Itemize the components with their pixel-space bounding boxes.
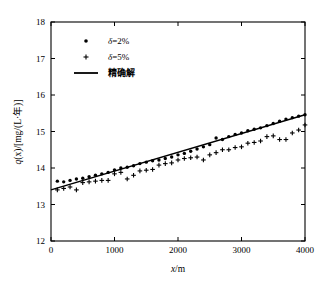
y-tick-label: 18 — [36, 17, 46, 27]
y-tick-label: 14 — [36, 163, 46, 173]
data-point-dot — [284, 117, 287, 120]
data-point-dot — [145, 160, 148, 163]
data-point-dot — [68, 179, 71, 182]
y-tick-label: 12 — [36, 236, 45, 246]
x-tick-label: 3000 — [233, 245, 252, 255]
data-point-dot — [56, 179, 59, 182]
data-point-dot — [81, 177, 84, 180]
data-point-dot — [272, 122, 275, 125]
scatter-plot: 01000200030004000 12131415161718 δ=2%δ=5… — [0, 0, 334, 286]
data-point-dot — [303, 113, 306, 116]
data-point-dot — [126, 166, 129, 169]
y-tick-label: 15 — [36, 127, 46, 137]
data-point-dot — [176, 153, 179, 156]
data-point-dot — [265, 124, 268, 127]
data-point-dot — [214, 136, 217, 139]
data-point-dot — [164, 157, 167, 160]
data-point-dot — [151, 159, 154, 162]
y-tick-label: 13 — [36, 200, 46, 210]
data-point-dot — [246, 129, 249, 132]
y-tick-label: 17 — [36, 54, 46, 64]
x-tick-label: 4000 — [296, 245, 315, 255]
data-point-dot — [253, 128, 256, 131]
data-point-dot — [157, 158, 160, 161]
data-point-dot — [297, 114, 300, 117]
data-point-dot — [94, 174, 97, 177]
data-point-dot — [291, 116, 294, 119]
x-tick-label: 1000 — [106, 245, 125, 255]
data-point-dot — [100, 172, 103, 175]
x-tick-label: 2000 — [169, 245, 188, 255]
x-axis-title: x/m — [170, 264, 186, 274]
chart-background — [0, 0, 334, 286]
data-point-dot — [233, 133, 236, 136]
y-axis-title: q(x)/[mg/(L·年)] — [12, 100, 24, 165]
data-point-dot — [259, 126, 262, 129]
data-point-dot — [240, 131, 243, 134]
legend-item-label: 精确解 — [108, 67, 135, 78]
data-point-dot — [119, 166, 122, 169]
data-point-dot — [75, 177, 78, 180]
data-point-dot — [208, 143, 211, 146]
data-point-dot — [278, 120, 281, 123]
data-point-dot — [62, 180, 65, 183]
x-tick-label: 0 — [49, 245, 54, 255]
data-point-dot — [195, 147, 198, 150]
data-point-dot — [170, 155, 173, 158]
data-point-dot — [84, 39, 88, 43]
legend-item-label: δ=5% — [108, 52, 130, 62]
chart-figure: 01000200030004000 12131415161718 δ=2%δ=5… — [0, 0, 334, 286]
data-point-dot — [189, 150, 192, 153]
data-point-dot — [132, 164, 135, 167]
legend-item-label: δ=2% — [108, 36, 130, 46]
y-tick-label: 16 — [36, 90, 46, 100]
data-point-dot — [113, 168, 116, 171]
data-point-dot — [202, 145, 205, 148]
data-point-dot — [221, 138, 224, 141]
data-point-dot — [227, 135, 230, 138]
data-point-dot — [87, 175, 90, 178]
data-point-dot — [138, 162, 141, 165]
data-point-dot — [183, 152, 186, 155]
data-point-dot — [106, 171, 109, 174]
